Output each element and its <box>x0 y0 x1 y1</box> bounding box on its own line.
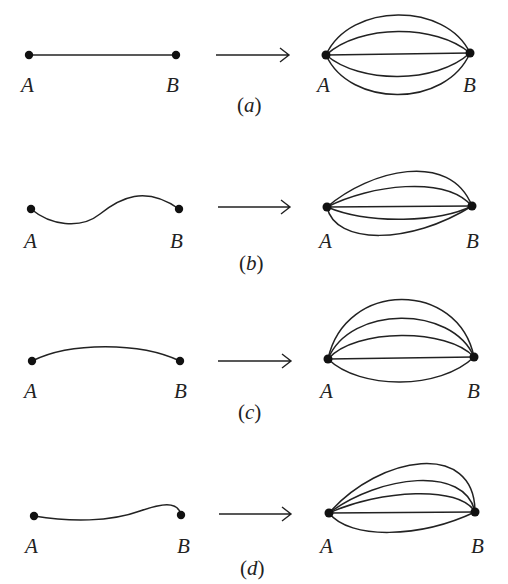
label-b-right-a: B <box>463 73 476 97</box>
family-path-c-4 <box>328 357 474 382</box>
family-path-c-2 <box>328 335 474 359</box>
point-a-dot <box>28 357 36 365</box>
family-path-d-2 <box>329 494 475 513</box>
label-a-left-d: A <box>23 534 38 558</box>
label-b-left-b: B <box>170 229 183 253</box>
label-a-left-c: A <box>22 379 37 403</box>
family-path-a-2 <box>326 53 470 55</box>
panel-b <box>27 171 477 235</box>
single-path-b <box>31 196 179 224</box>
point-a-dot <box>30 512 38 520</box>
label-a-left-a: A <box>19 73 34 97</box>
family-path-b-4 <box>327 206 472 235</box>
panel-d <box>30 464 480 533</box>
family-path-d-0 <box>329 464 475 513</box>
point-a-dot <box>25 51 33 59</box>
label-b-right-c: B <box>467 379 480 403</box>
single-path-d <box>34 505 181 520</box>
caption-c: (c) <box>238 400 261 424</box>
family-path-a-3 <box>326 53 470 77</box>
family-path-c-0 <box>328 299 474 359</box>
label-b-left-d: B <box>177 534 190 558</box>
diagram-canvas: (a) (b) (c) (d) A B A B A B A B A B A B … <box>0 0 508 584</box>
point-b-dot <box>468 202 477 211</box>
point-b-dot <box>176 357 184 365</box>
label-b-left-a: B <box>166 73 179 97</box>
family-path-d-3 <box>329 512 475 513</box>
family-path-a-1 <box>326 31 470 55</box>
point-a-dot <box>325 509 334 518</box>
caption-d: (d) <box>240 556 265 580</box>
family-path-d-1 <box>329 480 475 513</box>
panel-a <box>25 15 475 95</box>
right-arrow-icon <box>218 354 291 368</box>
single-path-c <box>32 347 180 361</box>
point-a-dot <box>323 203 332 212</box>
panel-c <box>28 299 479 382</box>
family-path-b-1 <box>327 186 472 207</box>
point-b-dot <box>470 353 479 362</box>
point-a-dot <box>27 205 35 213</box>
point-a-dot <box>324 355 333 364</box>
caption-b: (b) <box>239 251 264 275</box>
point-b-dot <box>471 508 480 517</box>
family-path-c-1 <box>328 318 474 359</box>
caption-a: (a) <box>237 93 262 117</box>
label-a-left-b: A <box>22 229 37 253</box>
family-path-a-4 <box>326 53 470 95</box>
label-a-right-c: A <box>318 379 333 403</box>
family-path-c-3 <box>328 357 474 359</box>
family-path-a-0 <box>326 15 470 55</box>
family-path-b-2 <box>327 206 472 207</box>
figure: (a) (b) (c) (d) A B A B A B A B A B A B … <box>0 0 508 584</box>
label-b-right-d: B <box>471 534 484 558</box>
label-b-left-c: B <box>174 379 187 403</box>
label-a-right-b: A <box>317 229 332 253</box>
point-a-dot <box>322 51 331 60</box>
point-b-dot <box>466 49 475 58</box>
right-arrow-icon <box>218 200 290 214</box>
right-arrow-icon <box>219 507 291 521</box>
right-arrow-icon <box>216 48 289 62</box>
label-a-right-d: A <box>318 534 333 558</box>
point-b-dot <box>175 205 183 213</box>
point-b-dot <box>177 511 185 519</box>
point-b-dot <box>172 51 180 59</box>
label-b-right-b: B <box>466 229 479 253</box>
family-path-b-0 <box>327 171 472 207</box>
family-path-d-4 <box>329 512 475 532</box>
label-a-right-a: A <box>315 73 330 97</box>
